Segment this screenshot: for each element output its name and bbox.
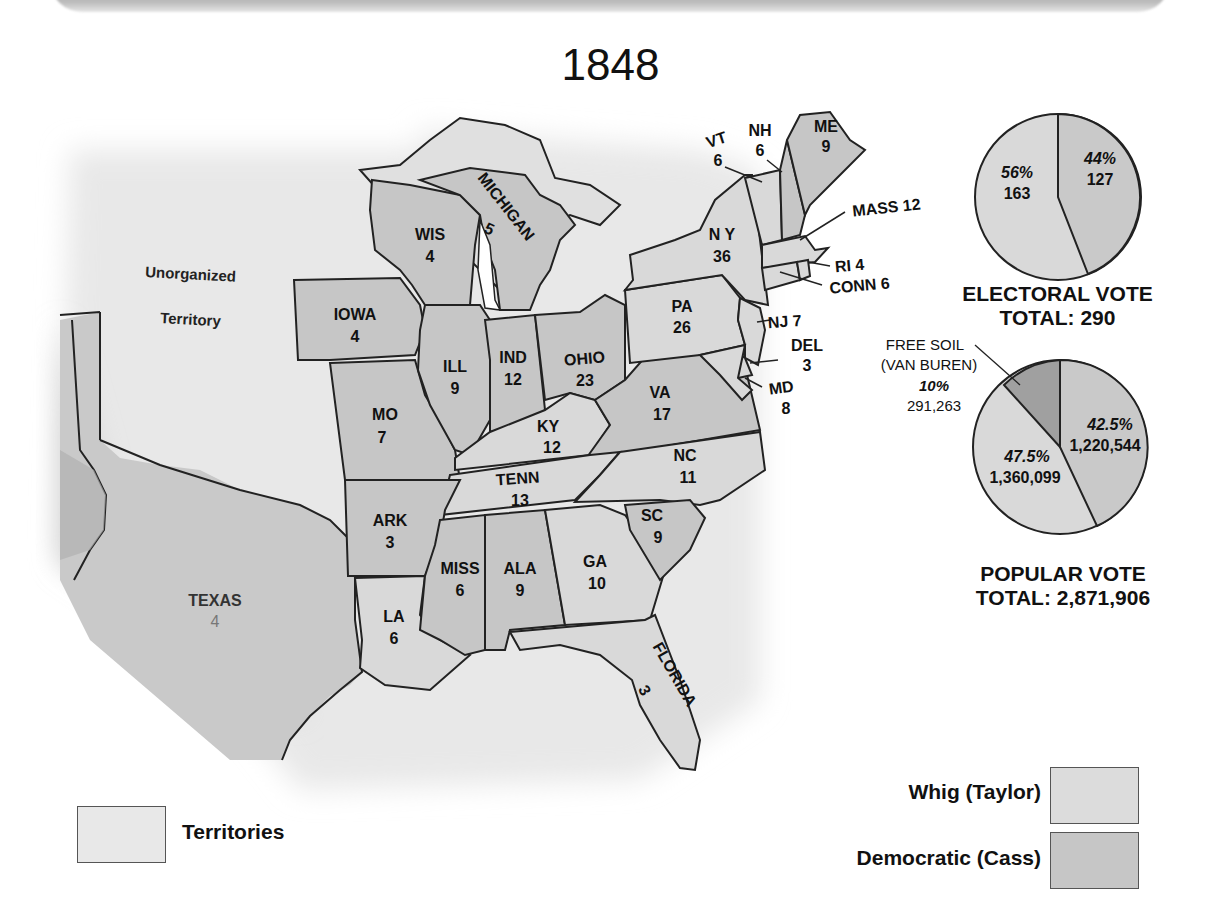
label-la-votes: 6 xyxy=(390,630,399,647)
label-texas-votes: 4 xyxy=(211,613,220,630)
label-ind-votes: 12 xyxy=(504,371,522,388)
electoral-title-line1: ELECTORAL VOTE xyxy=(950,282,1165,306)
state-ri xyxy=(797,260,810,280)
label-del: DEL xyxy=(791,337,823,354)
label-texas: TEXAS xyxy=(188,592,242,609)
label-md-votes: 8 xyxy=(782,400,791,417)
electoral-vote-pie: 56% 163 44% 127 xyxy=(975,114,1141,280)
label-va: VA xyxy=(649,384,670,401)
label-me: ME xyxy=(814,118,838,135)
legend-label-whig: Whig (Taylor) xyxy=(908,780,1041,804)
label-ill: ILL xyxy=(443,358,467,375)
label-mass: MASS 12 xyxy=(851,195,921,219)
label-nh-votes: 6 xyxy=(756,142,765,159)
label-nh: NH xyxy=(748,122,771,139)
legend-label-territories: Territories xyxy=(182,820,284,844)
popular-vote-title: POPULAR VOTE TOTAL: 2,871,906 xyxy=(948,562,1178,610)
label-sc-votes: 9 xyxy=(654,529,663,546)
label-tenn: TENN xyxy=(495,469,540,489)
popular-whig-pct: 47.5% xyxy=(1003,448,1049,465)
label-mo: MO xyxy=(372,406,398,423)
label-vt: VT xyxy=(704,128,729,151)
label-mo-votes: 7 xyxy=(378,429,387,446)
label-ark: ARK xyxy=(373,512,408,529)
popular-vote-pie: 42.5% 1,220,544 47.5% 1,360,099 FREE SOI… xyxy=(881,336,1148,534)
label-me-votes: 9 xyxy=(822,138,831,155)
popular-dem-votes: 1,220,544 xyxy=(1069,437,1140,454)
label-ind: IND xyxy=(499,349,527,366)
electoral-title-line2: TOTAL: 290 xyxy=(950,306,1165,330)
label-ga-votes: 10 xyxy=(588,575,606,592)
label-del-votes: 3 xyxy=(803,357,812,374)
label-pa-votes: 26 xyxy=(673,319,691,336)
label-ala: ALA xyxy=(504,560,537,577)
electoral-whig-votes: 163 xyxy=(1004,185,1031,202)
label-ny: N Y xyxy=(709,226,736,243)
legend-swatch-territories xyxy=(77,806,166,863)
label-nc: NC xyxy=(673,447,697,464)
label-miss-votes: 6 xyxy=(456,582,465,599)
label-territory: Territory xyxy=(160,309,222,329)
election-map: ME 9 NH 6 VT 6 MASS 12 RI 4 CONN 6 N Y 3… xyxy=(0,0,1221,905)
electoral-vote-title: ELECTORAL VOTE TOTAL: 290 xyxy=(950,282,1165,330)
label-nc-votes: 11 xyxy=(680,469,697,486)
label-tenn-votes: 13 xyxy=(511,492,529,509)
label-ga: GA xyxy=(583,553,607,570)
label-va-votes: 17 xyxy=(653,406,671,423)
label-vt-votes: 6 xyxy=(714,152,723,169)
label-ri: RI 4 xyxy=(834,256,865,276)
label-sc: SC xyxy=(641,507,664,524)
label-md: MD xyxy=(768,377,795,397)
label-ill-votes: 9 xyxy=(451,380,460,397)
label-la: LA xyxy=(383,608,405,625)
label-miss: MISS xyxy=(440,560,479,577)
label-wis: WIS xyxy=(415,226,446,243)
free-soil-pct: 10% xyxy=(919,377,949,394)
label-nj: NJ 7 xyxy=(767,312,802,331)
label-ohio: OHIO xyxy=(563,348,605,368)
label-ky-votes: 12 xyxy=(543,439,561,456)
label-ny-votes: 36 xyxy=(713,248,731,265)
legend-label-democratic: Democratic (Cass) xyxy=(857,846,1041,870)
label-ky: KY xyxy=(537,418,560,435)
legend-swatch-democratic xyxy=(1050,832,1139,889)
label-wis-votes: 4 xyxy=(426,248,435,265)
label-conn: CONN 6 xyxy=(829,274,891,296)
legend-swatch-whig xyxy=(1050,767,1139,824)
electoral-dem-votes: 127 xyxy=(1087,171,1114,188)
label-ohio-votes: 23 xyxy=(576,372,594,389)
free-soil-label: FREE SOIL xyxy=(886,336,964,353)
label-pa: PA xyxy=(671,298,692,315)
electoral-whig-pct: 56% xyxy=(1001,164,1033,181)
label-iowa-votes: 4 xyxy=(351,328,360,345)
label-ala-votes: 9 xyxy=(516,582,525,599)
popular-title-line2: TOTAL: 2,871,906 xyxy=(948,586,1178,610)
popular-dem-pct: 42.5% xyxy=(1086,416,1132,433)
electoral-dem-pct: 44% xyxy=(1083,150,1116,167)
free-soil-votes: 291,263 xyxy=(907,397,961,414)
popular-whig-votes: 1,360,099 xyxy=(989,469,1060,486)
label-ark-votes: 3 xyxy=(386,534,395,551)
free-soil-candidate: (VAN BUREN) xyxy=(881,356,977,373)
label-iowa: IOWA xyxy=(334,306,377,323)
popular-title-line1: POPULAR VOTE xyxy=(948,562,1178,586)
